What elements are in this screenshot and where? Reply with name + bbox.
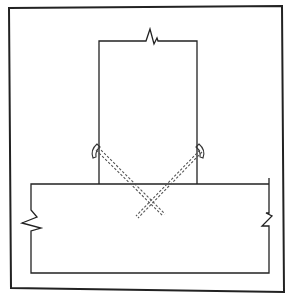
nail-left — [92, 144, 165, 216]
nail-shaft-right-a — [136, 150, 200, 216]
nail-shaft-right-b — [138, 152, 202, 218]
outer-frame — [9, 6, 284, 292]
nail-shaft-left-b — [98, 147, 165, 214]
nail-right — [136, 144, 204, 218]
diagram-svg — [0, 0, 290, 299]
stud-outline — [99, 29, 197, 184]
plate-outline — [22, 178, 272, 273]
nail-shaft-left-a — [96, 150, 163, 216]
toenail-joint-diagram — [0, 0, 290, 299]
